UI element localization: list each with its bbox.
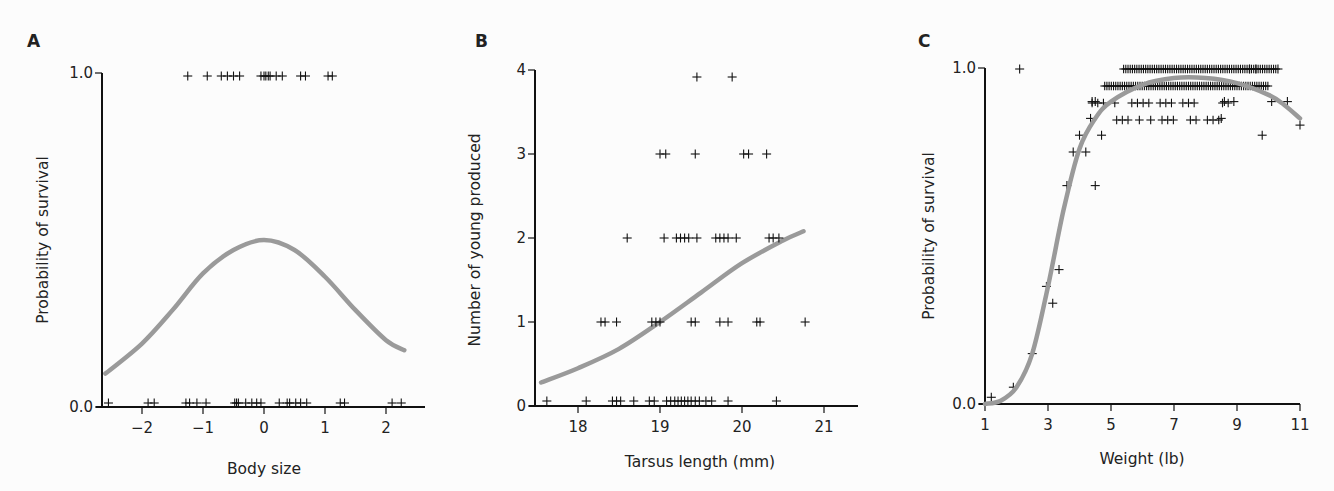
x-tick-label: 18 [568, 418, 587, 436]
x-tick-label: 5 [1106, 416, 1116, 434]
y-tick-label: 0 [516, 397, 526, 415]
y-axis-title-a: Probability of survival [34, 156, 52, 323]
x-tick-label: 1 [320, 419, 330, 437]
fit-curve [105, 240, 404, 374]
y-tick-label: 1 [516, 313, 526, 331]
panel-a: A Probability of survival Body size 0.01… [27, 31, 425, 478]
x-tick-label: 20 [732, 418, 751, 436]
x-tick-label: 3 [1043, 416, 1053, 434]
x-tick-label: −2 [131, 419, 153, 437]
x-tick-label: 1 [980, 416, 990, 434]
x-tick-label: 2 [381, 419, 391, 437]
panel-label-a: A [27, 31, 41, 51]
plot-area-c: 0.01.01357911 [952, 59, 1309, 434]
y-axis-title-c: Probability of survival [920, 152, 938, 319]
y-tick-label: 0.0 [952, 395, 976, 413]
fit-curve [541, 231, 803, 382]
x-tick-label: −1 [192, 419, 214, 437]
x-axis-title-b: Tarsus length (mm) [624, 453, 775, 471]
y-tick-label: 1.0 [69, 64, 93, 82]
panel-label-b: B [475, 31, 488, 51]
x-tick-label: 7 [1169, 416, 1179, 434]
y-tick-label: 1.0 [952, 59, 976, 77]
plot-area-a: 0.01.0−2−1012 [69, 64, 425, 437]
y-tick-label: 3 [516, 145, 526, 163]
y-tick-label: 4 [516, 61, 526, 79]
x-tick-label: 21 [814, 418, 833, 436]
x-tick-label: 0 [259, 419, 269, 437]
x-axis-title-c: Weight (lb) [1099, 450, 1184, 468]
panel-b: B Number of young produced Tarsus length… [466, 31, 858, 471]
x-axis-title-a: Body size [227, 460, 301, 478]
fit-curve [985, 77, 1300, 404]
figure: A Probability of survival Body size 0.01… [0, 0, 1334, 491]
x-tick-label: 9 [1232, 416, 1242, 434]
panel-c: C Probability of survival Weight (lb) 0.… [918, 31, 1310, 468]
y-tick-label: 0.0 [69, 398, 93, 416]
panel-label-c: C [918, 31, 930, 51]
y-tick-label: 2 [516, 229, 526, 247]
plot-area-b: 0123418192021 [516, 61, 858, 436]
x-tick-label: 19 [650, 418, 669, 436]
x-tick-label: 11 [1290, 416, 1309, 434]
y-axis-title-b: Number of young produced [466, 133, 484, 346]
